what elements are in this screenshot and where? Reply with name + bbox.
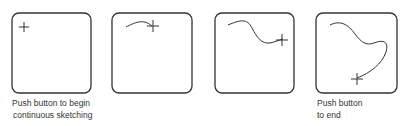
caption-end: Push button to end: [317, 97, 362, 121]
crosshair-cursor-icon: [19, 22, 29, 32]
caption-end-line1: Push button: [317, 97, 362, 109]
caption-begin-line1: Push button to begin: [12, 97, 92, 109]
screen-frame-2: [112, 13, 192, 93]
caption-begin-line2: continuous sketching: [12, 109, 92, 121]
screen-frame-3: [215, 13, 294, 93]
crosshair-cursor-icon: [147, 20, 159, 32]
sketch-stroke-4: [330, 23, 387, 78]
crosshair-cursor-icon: [276, 34, 288, 46]
crosshair-cursor-icon: [351, 73, 363, 85]
caption-begin: Push button to begin continuous sketchin…: [12, 97, 92, 121]
caption-end-line2: to end: [317, 109, 362, 121]
sketch-stroke-3: [228, 21, 283, 43]
